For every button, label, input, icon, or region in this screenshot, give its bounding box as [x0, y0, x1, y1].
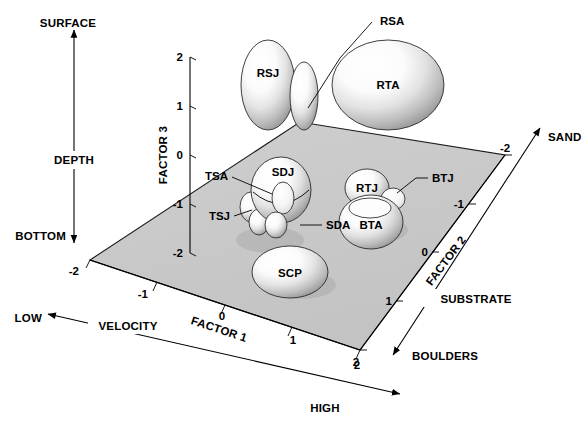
factor1-tick-1: 1	[290, 334, 297, 346]
substrate-sand-label: SAND	[548, 131, 581, 143]
factor2-tick-2: 2	[353, 356, 359, 368]
factor3-tick-1: 1	[177, 100, 184, 112]
depth-surface-label: SURFACE	[40, 17, 96, 29]
velocity-low-label: LOW	[15, 312, 42, 324]
callout-label-BTJ: BTJ	[432, 172, 454, 184]
bubble-label-RSJ: RSJ	[257, 67, 280, 79]
bubble-RTA: RTA	[332, 40, 444, 130]
axis-title-depth: DEPTH	[54, 154, 94, 166]
factor2-tick-neg1: -1	[454, 198, 465, 210]
depth-bottom-label: BOTTOM	[15, 230, 66, 242]
axis-title-velocity: VELOCITY	[98, 320, 157, 332]
factor3-tick-0: 0	[177, 149, 183, 161]
factor3-tick-neg1: -1	[173, 198, 184, 210]
factor3-tick-neg2: -2	[173, 247, 183, 259]
callout-label-RSA: RSA	[380, 15, 404, 27]
substrate-boulders-label: BOULDERS	[412, 350, 478, 362]
factor1-tick-neg2: -2	[69, 265, 79, 277]
axis-title-factor3: FACTOR 3	[157, 126, 169, 184]
bubble-label-BTA: BTA	[359, 219, 382, 231]
bubble-RSA	[290, 62, 318, 130]
bubble-label-SCP: SCP	[278, 267, 302, 279]
bubble-RSJ: RSJ	[241, 40, 295, 130]
bubble-label-RTJ: RTJ	[356, 182, 378, 194]
figure-canvas: RSJ RTA SCP SDJ RTJ	[0, 0, 588, 429]
factor1-tick-neg1: -1	[138, 288, 149, 300]
callout-label-TSJ: TSJ	[209, 210, 230, 222]
bubble-label-RTA: RTA	[376, 79, 399, 91]
three-d-bubble-plot: RSJ RTA SCP SDJ RTJ	[0, 0, 588, 429]
bubble-SCP: SCP	[252, 246, 328, 298]
factor2-tick-0: 0	[422, 246, 428, 258]
factor1-tick-0: 0	[219, 310, 225, 322]
bubble-label-SDJ: SDJ	[272, 166, 295, 178]
velocity-high-label: HIGH	[310, 402, 340, 414]
callout-label-SDA: SDA	[326, 219, 350, 231]
callout-label-TSA: TSA	[205, 170, 228, 182]
factor3-tick-2: 2	[177, 51, 183, 63]
factor2-tick-1: 1	[386, 295, 393, 307]
factor2-tick-neg2: -2	[500, 142, 510, 154]
axis-title-substrate: SUBSTRATE	[440, 293, 511, 305]
axis-depth-interpretation: SURFACE DEPTH BOTTOM	[15, 17, 108, 243]
